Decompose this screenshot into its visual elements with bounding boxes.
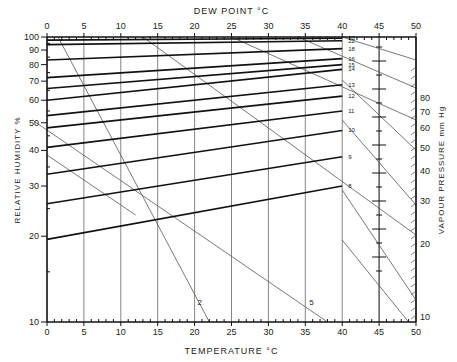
diagonal-line — [47, 155, 136, 215]
diagonal-label: 5 — [309, 298, 314, 307]
diagonal-line — [143, 37, 416, 235]
vapour-pressure-tick: 50 — [420, 143, 430, 153]
vapour-pressure-tick: 70 — [420, 107, 430, 117]
axes — [41, 33, 416, 326]
dew-point-tick: 30 — [263, 21, 273, 31]
vapour-pressure-tick: 30 — [420, 196, 430, 206]
vapour-pressure-tick: 20 — [420, 239, 430, 249]
dew-point-tick: 40 — [337, 21, 347, 31]
humidity-line-label: 9 — [348, 154, 352, 160]
humidity-line-label: 11 — [348, 108, 355, 114]
diagonal-line — [32, 120, 327, 322]
temperature-tick: 5 — [81, 327, 86, 337]
vapour-pressure-tick: 10 — [420, 312, 430, 322]
relative-humidity-axis-title: RELATIVE HUMIDITY % — [13, 116, 22, 223]
temperature-axis-title: TEMPERATURE °C — [185, 346, 279, 356]
diagonal-label: 2 — [198, 298, 203, 307]
temperature-tick: 10 — [116, 327, 126, 337]
temperature-tick: 25 — [226, 327, 236, 337]
dew-point-tick: 45 — [374, 21, 384, 31]
dew-point-tick: 50 — [411, 21, 421, 31]
diagonal-line — [58, 37, 209, 322]
humidity-tick: 50 — [29, 118, 39, 128]
temperature-tick: 20 — [190, 327, 200, 337]
temperature-tick: 30 — [263, 327, 273, 337]
humidity-line-label: 13 — [348, 82, 355, 88]
temperature-tick: 50 — [411, 327, 421, 337]
vapour-pressure-tick: 80 — [420, 93, 430, 103]
temperature-tick: 35 — [300, 327, 310, 337]
humidity-tick: 20 — [29, 231, 39, 241]
humidity-lines: 3022181615141312111098 — [47, 35, 356, 239]
dew-point-tick: 5 — [81, 21, 86, 31]
temperature-tick: 15 — [153, 327, 163, 337]
dew-point-tick: 15 — [153, 21, 163, 31]
diagonal-line — [342, 240, 408, 322]
dew-point-tick: 20 — [190, 21, 200, 31]
dew-point-diagonals — [32, 37, 416, 322]
humidity-tick: 10 — [29, 317, 39, 327]
humidity-tick: 90 — [29, 45, 39, 55]
humidity-line-label: 12 — [348, 93, 355, 99]
dew-point-tick: 0 — [44, 21, 49, 31]
vapour-pressure-tick: 60 — [420, 123, 430, 133]
humidity-line-label: 14 — [348, 66, 355, 72]
humidity-line-label: 10 — [348, 127, 355, 133]
humidity-tick: 30 — [29, 181, 39, 191]
temperature-tick: 45 — [374, 327, 384, 337]
diagonal-line — [298, 37, 416, 88]
humidity-tick: 40 — [29, 145, 39, 155]
psychrometric-chart: 3022181615141312111098 05101520253035404… — [0, 0, 457, 362]
vapour-pressure-axis-title: VAPOUR PRESSURE mm Hg — [437, 106, 446, 234]
temperature-tick: 40 — [337, 327, 347, 337]
vapour-pressure-tick: 40 — [420, 166, 430, 176]
temperature-tick: 0 — [44, 327, 49, 337]
humidity-tick: 70 — [29, 76, 39, 86]
dew-point-tick: 35 — [300, 21, 310, 31]
dew-point-axis-title: DEW POINT °C — [194, 6, 269, 16]
humidity-line-label: 18 — [348, 46, 355, 52]
humidity-tick: 60 — [29, 95, 39, 105]
dew-point-tick: 25 — [226, 21, 236, 31]
humidity-tick: 100 — [24, 32, 39, 42]
dew-point-tick: 10 — [116, 21, 126, 31]
humidity-tick: 80 — [29, 60, 39, 70]
